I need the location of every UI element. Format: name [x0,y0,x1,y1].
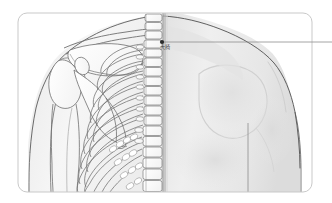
vertebra-t4 [144,68,162,77]
vertebra-t6 [144,87,162,96]
vertebra-t2 [144,49,162,57]
vertebra-t9 [144,116,162,125]
deltoid-shading [250,96,294,164]
acupoint-marker[interactable] [160,40,164,44]
figure-canvas [0,0,332,203]
vertebral-column [143,14,162,192]
vertebra-t5 [144,77,162,86]
midline-shadow [163,13,168,192]
vertebra-t3 [144,58,162,67]
vertebra-c7 [145,31,162,39]
vertebra-c6 [145,23,162,31]
vertebra-t7 [144,96,162,105]
anatomy-illustration [0,0,332,203]
vertebra-t1 [144,40,162,48]
vertebra-t8 [144,106,162,115]
vertebra-c5 [145,14,162,22]
latissimus-shading [175,132,255,188]
